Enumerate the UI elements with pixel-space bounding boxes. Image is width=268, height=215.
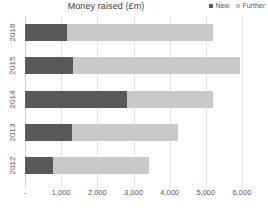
bar-segment-new-2014[interactable] <box>25 91 127 108</box>
y-tick-label-text: 2012 <box>8 156 17 174</box>
legend-swatch-new-icon <box>209 4 213 8</box>
bar-segment-further-2012[interactable] <box>53 157 149 174</box>
chart-legend: New Further <box>209 2 265 9</box>
bar-2015[interactable] <box>25 57 240 74</box>
chart-title-text: Money raised (£m) <box>68 1 145 11</box>
x-tick-label: 3,000 <box>124 188 143 197</box>
bar-2014[interactable] <box>25 91 213 108</box>
bar-segment-new-2012[interactable] <box>25 157 53 174</box>
y-tick-label-2016: 2016 <box>0 26 25 40</box>
y-tick-label-text: 2013 <box>8 123 17 141</box>
bar-2013[interactable] <box>25 124 178 141</box>
legend-item-new[interactable]: New <box>209 2 229 9</box>
x-tick-label: 5,000 <box>196 188 215 197</box>
y-tick-label-2015: 2015 <box>0 59 25 73</box>
bar-segment-further-2014[interactable] <box>127 91 213 108</box>
x-axis-labels: -1,0002,0003,0004,0005,0006,000 <box>0 188 268 202</box>
y-tick-label-text: 2015 <box>8 57 17 75</box>
legend-swatch-further-icon <box>236 4 240 8</box>
bar-segment-further-2015[interactable] <box>73 57 240 74</box>
x-tick-label: - <box>24 188 27 197</box>
x-tick-label: 6,000 <box>233 188 252 197</box>
gridline-6000 <box>242 16 243 188</box>
bar-segment-new-2013[interactable] <box>25 124 72 141</box>
y-tick-label-text: 2014 <box>8 90 17 108</box>
x-tick-label: 4,000 <box>160 188 179 197</box>
x-tick-label: 1,000 <box>52 188 71 197</box>
legend-label-new: New <box>215 2 229 9</box>
money-raised-chart: Money raised (£m) New Further 2016201520… <box>0 0 268 215</box>
bar-segment-further-2013[interactable] <box>72 124 178 141</box>
y-tick-label-2014: 2014 <box>0 92 25 106</box>
bars-container <box>25 16 242 182</box>
y-axis-labels: 20162015201420132012 <box>0 16 25 182</box>
bar-segment-new-2015[interactable] <box>25 57 73 74</box>
x-tick-label: 2,000 <box>88 188 107 197</box>
bar-2012[interactable] <box>25 157 149 174</box>
y-tick-label-2013: 2013 <box>0 125 25 139</box>
legend-item-further[interactable]: Further <box>236 2 265 9</box>
bar-2016[interactable] <box>25 24 213 41</box>
legend-label-further: Further <box>242 2 265 9</box>
y-tick-label-2012: 2012 <box>0 158 25 172</box>
y-tick-label-text: 2016 <box>8 24 17 42</box>
plot-area <box>25 16 242 188</box>
bar-segment-further-2016[interactable] <box>67 24 213 41</box>
bar-segment-new-2016[interactable] <box>25 24 67 41</box>
